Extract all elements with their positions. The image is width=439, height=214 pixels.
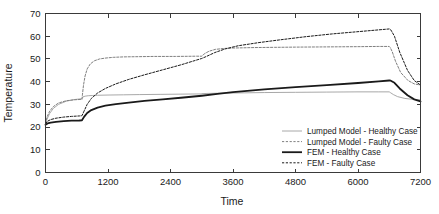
series-line-1 [46,92,421,125]
x-tick-label: 1200 [97,176,118,187]
chart-figure: 0120024003600480060007200010203040506070… [0,0,439,214]
x-tick-label: 0 [43,176,48,187]
x-tick-label: 7200 [410,176,431,187]
y-tick-label: 50 [30,53,41,64]
x-tick-label: 4800 [285,176,306,187]
x-tick-label: 2400 [160,176,181,187]
chart-legend: Lumped Model - Healthy CaseLumped Model … [282,127,418,168]
series-line-2 [46,46,421,123]
y-tick-label: 70 [30,8,41,19]
x-tick-label: 6000 [347,176,368,187]
y-tick-label: 40 [30,76,41,87]
y-axis-title: Temperature [2,63,14,122]
legend-label-2: Lumped Model - Faulty Case [307,138,413,147]
x-tick-label: 3600 [222,176,243,187]
legend-label-1: Lumped Model - Healthy Case [307,127,418,136]
y-tick-label: 30 [30,99,41,110]
y-tick-label: 10 [30,144,41,155]
legend-label-4: FEM - Faulty Case [307,159,376,168]
series-layer [46,29,421,125]
legend-label-3: FEM - Healthy Case [307,148,381,157]
series-line-3 [46,81,421,125]
y-tick-label: 0 [35,167,40,178]
x-axis-title: Time [221,195,244,207]
y-tick-label: 60 [30,31,41,42]
y-tick-label: 20 [30,121,41,132]
line-chart: 0120024003600480060007200010203040506070… [0,0,439,214]
series-line-4 [46,29,421,124]
